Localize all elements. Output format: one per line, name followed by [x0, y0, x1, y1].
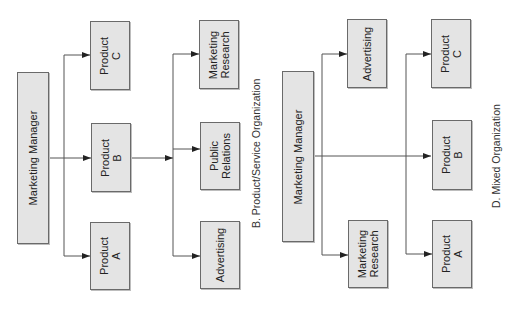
- b-marketing-manager-box: Marketing Manager: [17, 72, 49, 244]
- b-public-relations-label: Public Relations: [208, 133, 232, 179]
- d-marketing-research-box: Marketing Research: [348, 220, 388, 288]
- d-product-c-box: Product C: [431, 19, 471, 88]
- d-product-a-box: Product A: [432, 220, 472, 288]
- b-marketing-research-label: Marketing Research: [207, 30, 231, 78]
- d-product-a-label: Product A: [440, 235, 464, 273]
- b-advertising-label: Advertising: [214, 228, 226, 282]
- b-product-b-label: Product B: [99, 139, 123, 177]
- b-product-b-box: Product B: [91, 123, 131, 192]
- b-product-c-label: Product C: [98, 37, 122, 75]
- b-marketing-manager-label: Marketing Manager: [27, 111, 39, 206]
- d-product-b-box: Product B: [432, 120, 472, 190]
- d-marketing-research-label: Marketing Research: [356, 230, 380, 278]
- b-public-relations-box: Public Relations: [200, 122, 240, 190]
- d-product-c-label: Product C: [439, 35, 463, 73]
- b-product-c-box: Product C: [90, 21, 130, 90]
- d-caption: D. Mixed Organization: [490, 104, 502, 208]
- d-advertising-label: Advertising: [361, 26, 373, 80]
- b-advertising-box: Advertising: [200, 221, 240, 289]
- d-marketing-manager-label: Marketing Manager: [292, 109, 304, 204]
- d-marketing-manager-box: Marketing Manager: [282, 71, 314, 242]
- b-product-a-label: Product A: [98, 237, 122, 275]
- b-marketing-research-box: Marketing Research: [199, 20, 239, 89]
- d-advertising-box: Advertising: [347, 19, 387, 88]
- b-caption: B. Product/Service Organization: [250, 79, 262, 228]
- d-product-b-label: Product B: [440, 136, 464, 174]
- b-product-a-box: Product A: [90, 222, 130, 290]
